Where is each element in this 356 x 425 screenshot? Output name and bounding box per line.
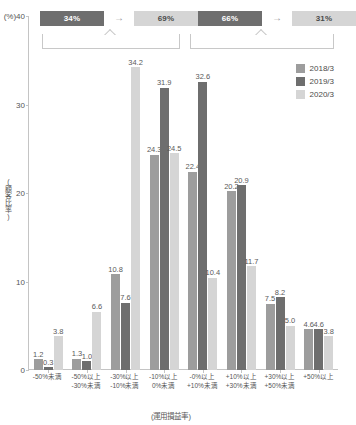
bar-2020-3-6[interactable]: 5.0 (286, 16, 295, 370)
bar-rect (54, 336, 63, 370)
x-axis-label-1: -50%以上-30%未満 (67, 373, 106, 403)
bar-2020-3-3[interactable]: 24.5 (170, 16, 179, 370)
bar-group: 24.331.924.5 (145, 16, 184, 370)
bar-2019-3-3[interactable]: 31.9 (160, 16, 169, 370)
bar-rect (170, 153, 179, 370)
bar-2018-3-5[interactable]: 20.2 (227, 16, 236, 370)
bar-value-label: 5.0 (285, 317, 295, 325)
bar-2018-3-0[interactable]: 1.2 (34, 16, 43, 370)
bar-rect (198, 82, 207, 371)
bar-2019-3-4[interactable]: 32.6 (198, 16, 207, 370)
y-tick-10: 10 (3, 277, 25, 286)
bar-rect (237, 185, 246, 370)
x-label-line1: +30%以上 (261, 373, 300, 382)
bar-rect (188, 172, 197, 370)
x-axis-title: (運用損益率) (0, 410, 342, 421)
bar-value-label: 7.5 (265, 295, 275, 303)
x-label-line1: +10%以上 (222, 373, 261, 382)
legend-label: 2018/3 (310, 64, 334, 73)
x-label-line2: -30%未満 (67, 382, 106, 391)
bar-2018-3-1[interactable]: 1.3 (72, 16, 81, 370)
bar-2020-3-5[interactable]: 11.7 (247, 16, 256, 370)
legend: 2018/32019/32020/3 (296, 64, 334, 99)
legend-label: 2019/3 (310, 77, 334, 86)
bar-rect (121, 303, 130, 370)
x-axis-label-3: -10%以上0%未満 (144, 373, 183, 403)
bar-group: 22.432.610.4 (184, 16, 223, 370)
bar-rect (286, 326, 295, 370)
y-axis-title: (顧客比率) (0, 178, 13, 220)
bar-rect (82, 361, 91, 370)
bar-2019-3-0[interactable]: 0.3 (44, 16, 53, 370)
x-label-line1: -10%以上 (144, 373, 183, 382)
bar-group: 1.20.33.8 (29, 16, 68, 370)
bar-rect (314, 329, 323, 370)
y-tick-20: 20 (3, 189, 25, 198)
bar-value-label: 3.8 (323, 328, 333, 336)
x-axis-label-2: -30%以上-10%未満 (106, 373, 145, 403)
bar-rect (72, 359, 81, 371)
bar-2020-3-2[interactable]: 34.2 (131, 16, 140, 370)
x-axis-label-7: +50%以上 (299, 373, 338, 403)
bar-value-label: 0.3 (43, 359, 53, 367)
bar-group: 20.220.911.7 (222, 16, 261, 370)
x-axis-label-5: +10%以上+30%未満 (222, 373, 261, 403)
bar-2019-3-2[interactable]: 7.6 (121, 16, 130, 370)
bar-group: 7.58.25.0 (261, 16, 300, 370)
bar-group: 1.31.06.6 (68, 16, 107, 370)
legend-label: 2020/3 (310, 90, 334, 99)
bar-rect (34, 359, 43, 370)
legend-item-2019-3[interactable]: 2019/3 (296, 77, 334, 86)
x-label-line1: -50%以上 (67, 373, 106, 382)
x-label-line1: +50%以上 (299, 373, 338, 382)
legend-item-2018-3[interactable]: 2018/3 (296, 64, 334, 73)
x-label-line1: -30%以上 (106, 373, 145, 382)
bar-value-label: 1.3 (72, 350, 82, 358)
x-label-line2: 0%未満 (144, 382, 183, 391)
y-tick-0: 0 (3, 366, 25, 375)
x-label-line1: -0%以上 (183, 373, 222, 382)
y-tick-mark (26, 370, 29, 371)
bar-rect (92, 312, 101, 370)
bar-groups: 1.20.33.81.31.06.610.87.634.224.331.924.… (29, 16, 338, 370)
x-axis-labels: -50%未満-50%以上-30%未満-30%以上-10%未満-10%以上0%未満… (28, 373, 338, 403)
bar-rect (276, 297, 285, 370)
bar-2019-3-1[interactable]: 1.0 (82, 16, 91, 370)
bar-value-label: 24.5 (167, 145, 182, 153)
legend-swatch-icon (296, 77, 305, 86)
plot-area: (%)403020100 1.20.33.81.31.06.610.87.634… (28, 16, 338, 370)
bar-2020-3-1[interactable]: 6.6 (92, 16, 101, 370)
legend-item-2020-3[interactable]: 2020/3 (296, 90, 334, 99)
bar-2020-3-0[interactable]: 3.8 (54, 16, 63, 370)
bar-2018-3-4[interactable]: 22.4 (188, 16, 197, 370)
bar-2019-3-5[interactable]: 20.9 (237, 16, 246, 370)
bar-2018-3-2[interactable]: 10.8 (111, 16, 120, 370)
bar-rect (227, 191, 236, 370)
y-tick-40: (%)40 (3, 12, 25, 21)
bar-2020-3-4[interactable]: 10.4 (208, 16, 217, 370)
x-axis-label-4: -0%以上+10%未満 (183, 373, 222, 403)
y-axis-unit: (%) (4, 12, 16, 21)
bar-value-label: 7.6 (120, 294, 130, 302)
bar-value-label: 4.6 (303, 321, 313, 329)
bar-group: 10.87.634.2 (106, 16, 145, 370)
bar-value-label: 8.2 (275, 289, 285, 297)
bar-value-label: 3.8 (53, 328, 63, 336)
bar-value-label: 11.7 (244, 258, 258, 266)
bar-value-label: 10.4 (206, 269, 221, 277)
bar-rect (266, 304, 275, 370)
bar-rect (247, 266, 256, 370)
bar-2018-3-3[interactable]: 24.3 (150, 16, 159, 370)
x-axis-label-0: -50%未満 (28, 373, 67, 403)
bar-value-label: 1.2 (33, 351, 43, 359)
x-label-line2: +30%未満 (222, 382, 261, 391)
x-label-line2: +10%未満 (183, 382, 222, 391)
bar-2018-3-6[interactable]: 7.5 (266, 16, 275, 370)
legend-swatch-icon (296, 90, 305, 99)
x-label-line1: -50%未満 (28, 373, 67, 382)
bar-rect (304, 329, 313, 370)
y-tick-30: 30 (3, 100, 25, 109)
bar-rect (131, 67, 140, 370)
bar-2019-3-6[interactable]: 8.2 (276, 16, 285, 370)
